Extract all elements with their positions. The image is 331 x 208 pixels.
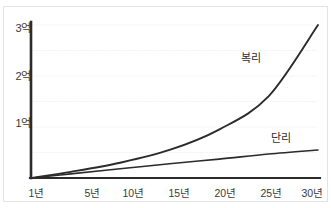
chart-plot-area (0, 0, 331, 208)
series-line-simple (31, 150, 318, 178)
chart-figure: 3억 2억 1억 1년 5년 10년 15년 20년 25년 30년 복리 단리 (0, 0, 331, 208)
axis-lines (30, 22, 320, 178)
